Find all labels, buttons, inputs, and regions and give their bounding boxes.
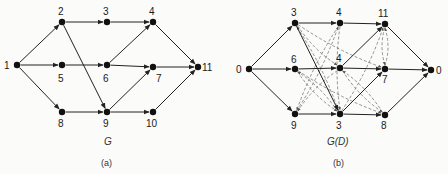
graph-b-title: G(D) bbox=[327, 136, 349, 147]
graph-b-node-label: 0 bbox=[236, 64, 242, 75]
edge bbox=[252, 71, 293, 111]
dashed-edge bbox=[297, 25, 337, 65]
graph-b-node bbox=[382, 21, 388, 27]
graph-a-node bbox=[104, 109, 110, 115]
edge bbox=[110, 70, 151, 110]
edge bbox=[110, 65, 149, 67]
graph-b-node bbox=[337, 20, 343, 26]
graph-b-node-label: 9 bbox=[291, 120, 297, 131]
edge bbox=[20, 25, 60, 63]
graph-b-node-label: 4 bbox=[336, 53, 342, 64]
edge bbox=[110, 25, 151, 63]
edge bbox=[19, 68, 59, 110]
edge bbox=[64, 25, 106, 108]
graph-a-node bbox=[150, 19, 156, 25]
graph-a-node bbox=[104, 62, 110, 68]
graph-a-node bbox=[59, 109, 65, 115]
graph-b-node bbox=[292, 66, 298, 72]
graph-b-node bbox=[382, 112, 388, 118]
graph-a-node bbox=[150, 64, 156, 70]
graph-b-node bbox=[428, 67, 434, 73]
dashed-edge bbox=[298, 71, 338, 112]
graph-a-title: G bbox=[104, 136, 112, 147]
graph-a-node-label: 2 bbox=[58, 6, 64, 17]
edge bbox=[343, 114, 381, 115]
graph-a-node bbox=[195, 64, 201, 70]
edge bbox=[155, 24, 195, 64]
graph-b-node-label: 8 bbox=[381, 120, 387, 131]
graph-a-node bbox=[14, 62, 20, 68]
graph-b-node bbox=[292, 20, 298, 26]
graph-b-node bbox=[382, 66, 388, 72]
graph-b-node-label: 6 bbox=[291, 54, 297, 65]
graph-b-node-label: 7 bbox=[382, 74, 388, 85]
edge bbox=[343, 27, 383, 66]
edge bbox=[387, 26, 428, 67]
graph-b-node-label: 3 bbox=[291, 7, 297, 18]
graph-a-node bbox=[104, 19, 110, 25]
edge bbox=[388, 73, 429, 113]
edge bbox=[251, 26, 292, 67]
dashed-edge bbox=[385, 28, 388, 66]
edge bbox=[298, 68, 336, 69]
graph-a-node-label: 8 bbox=[58, 118, 64, 129]
graph-a-node bbox=[59, 62, 65, 68]
graph-b-node-label: 3 bbox=[336, 120, 342, 131]
graph-a-node bbox=[59, 19, 65, 25]
graph-a-node-label: 1 bbox=[4, 60, 10, 71]
graph-b-node bbox=[292, 111, 298, 117]
diagram-canvas: 1234567891011 034116470938 G (a) G(D) (b… bbox=[0, 0, 448, 174]
edge bbox=[343, 23, 381, 24]
edge bbox=[343, 68, 381, 69]
graph-b-caption: (b) bbox=[333, 158, 344, 168]
graph-a-caption: (a) bbox=[101, 158, 112, 168]
graph-a-node-label: 4 bbox=[149, 6, 155, 17]
graph-a-node-label: 5 bbox=[58, 73, 64, 84]
dashed-edge bbox=[382, 28, 385, 66]
graph-a-node-label: 3 bbox=[103, 6, 109, 17]
graph-b-node bbox=[337, 111, 343, 117]
graph-a-node-label: 10 bbox=[146, 118, 158, 129]
graph-b-node bbox=[246, 66, 252, 72]
edge bbox=[388, 69, 427, 70]
graph-b-node-label: 11 bbox=[378, 8, 389, 19]
graph-a-node bbox=[150, 109, 156, 115]
graph-a-node-label: 7 bbox=[156, 73, 162, 84]
graph-a-node-label: 11 bbox=[202, 62, 213, 73]
graph-a-node-label: 6 bbox=[103, 73, 109, 84]
edge bbox=[342, 72, 382, 112]
graph-b-node bbox=[337, 65, 343, 71]
graph-a-node-label: 9 bbox=[103, 118, 109, 129]
graph-b-node-label: 0 bbox=[436, 65, 442, 76]
graph-b-node-label: 4 bbox=[336, 7, 342, 18]
